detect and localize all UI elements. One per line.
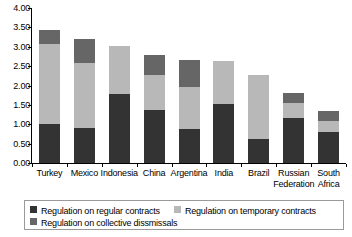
legend-item-temporary-contracts: Regulation on temporary contracts <box>174 204 316 216</box>
bar-segment <box>318 132 339 163</box>
bar-group <box>179 60 200 163</box>
y-tick-mark <box>28 47 31 48</box>
bar-segment <box>144 55 165 75</box>
x-tick-mark <box>346 164 347 167</box>
bar-group <box>248 75 269 163</box>
bar-segment <box>179 129 200 163</box>
bar-segment <box>213 104 234 163</box>
legend-item-collective-dismissals: Regulation on collective dissmissals <box>30 216 177 228</box>
bar-segment <box>179 87 200 130</box>
bar-group <box>109 46 130 163</box>
bar-segment <box>318 121 339 132</box>
y-tick-mark <box>28 124 31 125</box>
x-axis-category-labels: TurkeyMexicoIndonesiaChinaArgentinaIndia… <box>32 168 346 194</box>
y-tick-mark <box>28 8 31 9</box>
bar-group <box>318 111 339 163</box>
x-tick-mark <box>276 164 277 167</box>
legend-label-collective: Regulation on collective dissmissals <box>41 217 177 229</box>
y-tick-label: 4.00 <box>0 4 30 13</box>
bar-segment <box>283 103 304 118</box>
y-axis-tick-labels: 4.003.503.002.502.001.501.000.500.00 <box>0 0 30 165</box>
legend-row-2: Regulation on collective dissmissals <box>30 216 338 228</box>
x-tick-mark <box>67 164 68 167</box>
bar-segment <box>248 75 269 139</box>
y-tick-mark <box>28 105 31 106</box>
plot-area: 4.003.503.002.502.001.501.000.500.00 <box>0 0 352 165</box>
y-tick-mark <box>28 144 31 145</box>
bar-group <box>144 55 165 163</box>
bar-segment <box>248 139 269 163</box>
bar-segment <box>109 94 130 163</box>
y-tick-label: 3.50 <box>0 23 30 32</box>
bar-group <box>283 93 304 163</box>
y-tick-label: 0.00 <box>0 159 30 168</box>
bar-segment <box>283 93 304 103</box>
bar-segment <box>74 128 95 163</box>
y-tick-label: 2.00 <box>0 81 30 90</box>
x-tick-mark <box>311 164 312 167</box>
y-tick-label: 2.50 <box>0 62 30 71</box>
x-tick-mark <box>206 164 207 167</box>
bar-segment <box>74 39 95 63</box>
x-category-label: South Africa <box>308 168 349 190</box>
x-tick-mark <box>32 164 33 167</box>
bar-group <box>39 30 60 163</box>
legend-swatch-regular-icon <box>30 206 37 213</box>
bar-segment <box>179 60 200 87</box>
bar-segment <box>74 63 95 128</box>
y-tick-mark <box>28 86 31 87</box>
x-tick-mark <box>102 164 103 167</box>
bar-group <box>213 61 234 163</box>
y-tick-label: 1.00 <box>0 120 30 129</box>
bar-segment <box>318 111 339 121</box>
bar-segment <box>39 124 60 163</box>
legend-label-regular: Regulation on regular contracts <box>41 205 160 217</box>
bar-segment <box>283 118 304 163</box>
bar-segment <box>109 46 130 94</box>
y-tick-mark <box>28 66 31 67</box>
bars-layer <box>32 0 346 164</box>
stacked-bar-chart: 4.003.503.002.502.001.501.000.500.00 Tur… <box>0 0 352 237</box>
bar-segment <box>39 44 60 124</box>
y-tick-mark <box>28 27 31 28</box>
x-tick-mark <box>241 164 242 167</box>
y-tick-label: 0.50 <box>0 139 30 148</box>
bar-segment <box>144 110 165 163</box>
bar-segment <box>144 75 165 111</box>
legend-swatch-collective-icon <box>30 218 37 225</box>
bar-segment <box>213 61 234 104</box>
bar-group <box>74 39 95 163</box>
legend-swatch-temporary-icon <box>174 206 181 213</box>
y-tick-mark <box>28 163 31 164</box>
legend-label-temporary: Regulation on temporary contracts <box>185 205 316 217</box>
legend-row-1: Regulation on regular contracts Regulati… <box>30 204 338 216</box>
chart-legend: Regulation on regular contracts Regulati… <box>24 200 344 230</box>
x-tick-mark <box>137 164 138 167</box>
legend-item-regular-contracts: Regulation on regular contracts <box>30 204 160 216</box>
y-tick-label: 3.00 <box>0 42 30 51</box>
y-tick-label: 1.50 <box>0 100 30 109</box>
bar-segment <box>39 30 60 44</box>
x-tick-mark <box>172 164 173 167</box>
